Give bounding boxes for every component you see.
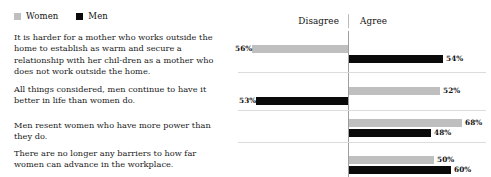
column-headers: Disagree Agree	[238, 16, 486, 30]
chart-group: Men resent women who have more power tha…	[0, 116, 491, 145]
bar-row: 56%	[0, 45, 491, 53]
bar-men	[349, 129, 431, 137]
bar-value-men: 54%	[446, 54, 463, 63]
bar-row: 53%	[0, 97, 491, 105]
bar-men	[256, 97, 348, 105]
bar-men	[349, 55, 443, 63]
bar-value-men: 60%	[454, 165, 471, 174]
plot-area: It is harder for a mother who works outs…	[0, 31, 491, 177]
bar-row: 52%	[0, 87, 491, 95]
legend-item-men: Men	[76, 12, 108, 21]
header-divider	[348, 14, 349, 28]
group-separator	[238, 72, 486, 73]
bar-women	[349, 156, 434, 164]
chart-group: All things considered, men continue to h…	[0, 78, 491, 116]
chart-legend: Women Men	[14, 10, 108, 22]
bar-value-women: 50%	[437, 155, 454, 164]
chart-group: There are no longer any barriers to how …	[0, 145, 491, 177]
square-swatch-icon	[76, 13, 83, 20]
bar-men	[349, 166, 451, 174]
bar-row: 54%	[0, 55, 491, 63]
bar-value-men: 53%	[239, 96, 256, 105]
bar-value-men: 48%	[434, 128, 451, 137]
chart-group: It is harder for a mother who works outs…	[0, 31, 491, 78]
bar-value-women: 56%	[235, 44, 252, 53]
bar-row: 50%	[0, 156, 491, 164]
group-separator	[238, 142, 486, 143]
group-separator	[238, 110, 486, 111]
diverging-bar-chart: Women Men Disagree Agree It is harder fo…	[0, 0, 491, 177]
header-disagree: Disagree	[298, 16, 339, 26]
bar-women	[349, 119, 462, 127]
bar-value-women: 68%	[465, 118, 482, 127]
bar-value-women: 52%	[443, 86, 460, 95]
legend-label-women: Women	[26, 12, 58, 21]
legend-label-men: Men	[88, 12, 108, 21]
bar-women	[252, 45, 348, 53]
bar-women	[349, 87, 440, 95]
square-swatch-icon	[14, 13, 21, 20]
bar-row: 48%	[0, 129, 491, 137]
bar-row: 60%	[0, 166, 491, 174]
header-agree: Agree	[360, 16, 387, 26]
bar-row: 68%	[0, 119, 491, 127]
legend-item-women: Women	[14, 12, 58, 21]
